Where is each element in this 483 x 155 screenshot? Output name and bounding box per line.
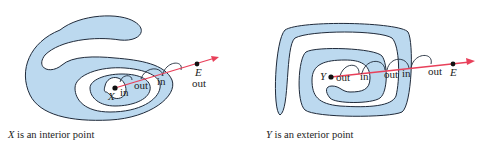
left-figure: X in out in E out — [25, 16, 219, 120]
left-crossing-2: out — [134, 79, 148, 91]
left-region — [25, 16, 172, 120]
right-caption-text: is an exterior point — [272, 129, 354, 140]
right-caption: Y is an exterior point — [266, 129, 354, 140]
right-crossing-3: out — [384, 68, 398, 80]
right-crossing-1: out — [336, 71, 350, 83]
left-crossing-3: in — [157, 75, 166, 87]
label-e-left-status: out — [192, 77, 206, 89]
label-e-right: E — [449, 66, 457, 78]
right-crossing-2: in — [360, 70, 369, 82]
right-ray-arrowhead — [466, 58, 475, 65]
right-figure: Y out in out in out E — [275, 23, 475, 116]
label-x: X — [107, 90, 116, 102]
label-y: Y — [320, 70, 328, 82]
right-crossing-4: in — [402, 67, 411, 79]
left-caption: X is an interior point — [8, 129, 94, 140]
left-caption-text: is an interior point — [14, 129, 94, 140]
left-crossing-1: in — [120, 86, 129, 98]
right-crossing-5: out — [428, 65, 442, 77]
left-ray-arrowhead — [211, 56, 219, 62]
point-y — [328, 74, 333, 79]
